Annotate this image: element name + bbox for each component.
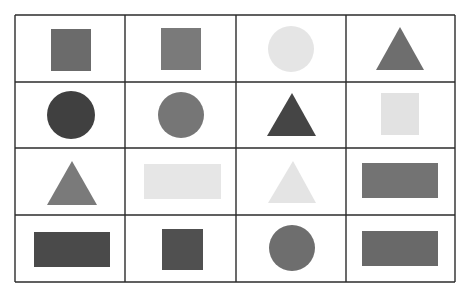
- circle-shape-r3-c2: [269, 225, 315, 271]
- shape-grid: [0, 0, 468, 296]
- rectangle-shape-r3-c3: [362, 231, 438, 266]
- square-shape-r0-c0: [51, 29, 91, 71]
- shape-grid-canvas: [0, 0, 468, 296]
- rectangle-shape-r2-c3: [362, 163, 438, 198]
- circle-shape-r1-c0: [47, 91, 95, 139]
- square-shape-r3-c1: [162, 229, 203, 270]
- circle-shape-r1-c1: [158, 92, 204, 138]
- square-shape-r1-c3: [381, 93, 419, 135]
- circle-shape-r0-c2: [268, 26, 314, 72]
- rectangle-shape-r2-c1: [144, 164, 221, 199]
- square-shape-r0-c1: [161, 28, 201, 70]
- rectangle-shape-r3-c0: [34, 232, 110, 267]
